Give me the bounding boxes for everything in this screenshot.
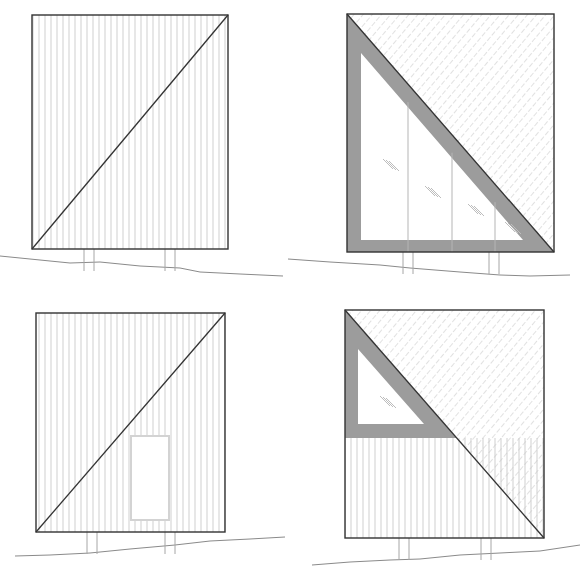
elevation-drawing-sheet bbox=[0, 0, 582, 576]
door bbox=[131, 436, 169, 520]
elevation-2 bbox=[288, 14, 570, 276]
ground-line bbox=[15, 537, 285, 556]
elevation-4 bbox=[312, 310, 580, 565]
glass-reflection-mark bbox=[386, 160, 396, 170]
ground-line bbox=[312, 545, 580, 565]
glass-reflection-mark bbox=[383, 397, 393, 407]
ground-line bbox=[288, 259, 570, 276]
glass-reflection-mark bbox=[428, 187, 438, 197]
ground-line bbox=[0, 256, 283, 276]
glass-reflection-mark bbox=[471, 205, 481, 215]
elevation-1 bbox=[0, 15, 283, 276]
elevation-3 bbox=[15, 313, 285, 556]
